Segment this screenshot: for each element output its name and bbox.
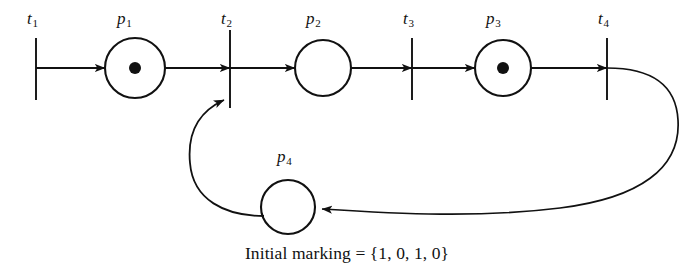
place-label-p4-sub: 4 bbox=[286, 155, 292, 167]
place-label-p3: p3 bbox=[486, 10, 500, 27]
place-label-p1: p1 bbox=[117, 10, 131, 27]
petri-net-canvas bbox=[0, 0, 694, 278]
transition-label-t2: t2 bbox=[221, 10, 232, 27]
transition-label-t1-sub: 1 bbox=[32, 17, 38, 29]
place-label-p2-sub: 2 bbox=[315, 17, 321, 29]
transition-label-t4-sub: 4 bbox=[603, 17, 609, 29]
figure-caption: Initial marking = {1, 0, 1, 0} bbox=[0, 243, 694, 264]
place-label-p3-sub: 3 bbox=[495, 17, 501, 29]
place-circle-p2 bbox=[295, 40, 351, 96]
transition-label-t1: t1 bbox=[27, 10, 38, 27]
transition-label-t3: t3 bbox=[403, 10, 414, 27]
place-label-p3-text: p bbox=[486, 9, 495, 28]
place-label-p2: p2 bbox=[306, 10, 320, 27]
place-label-p4: p4 bbox=[277, 148, 291, 165]
arc-t4-p4 bbox=[322, 68, 678, 214]
token-dot-p1 bbox=[129, 62, 141, 74]
place-label-p1-text: p bbox=[117, 9, 126, 28]
place-label-p2-text: p bbox=[306, 9, 315, 28]
place-label-p4-text: p bbox=[277, 147, 286, 166]
transition-label-t4: t4 bbox=[598, 10, 609, 27]
token-dot-p3 bbox=[497, 62, 509, 74]
place-circle-p4 bbox=[261, 180, 315, 234]
place-label-p1-sub: 1 bbox=[126, 17, 132, 29]
arc-p4-t2 bbox=[190, 100, 264, 216]
petri-net-figure: t1 t2 t3 t4 p1 p2 p3 p4 Initial marking … bbox=[0, 0, 694, 278]
transition-label-t3-sub: 3 bbox=[408, 17, 414, 29]
transition-label-t2-sub: 2 bbox=[226, 17, 232, 29]
